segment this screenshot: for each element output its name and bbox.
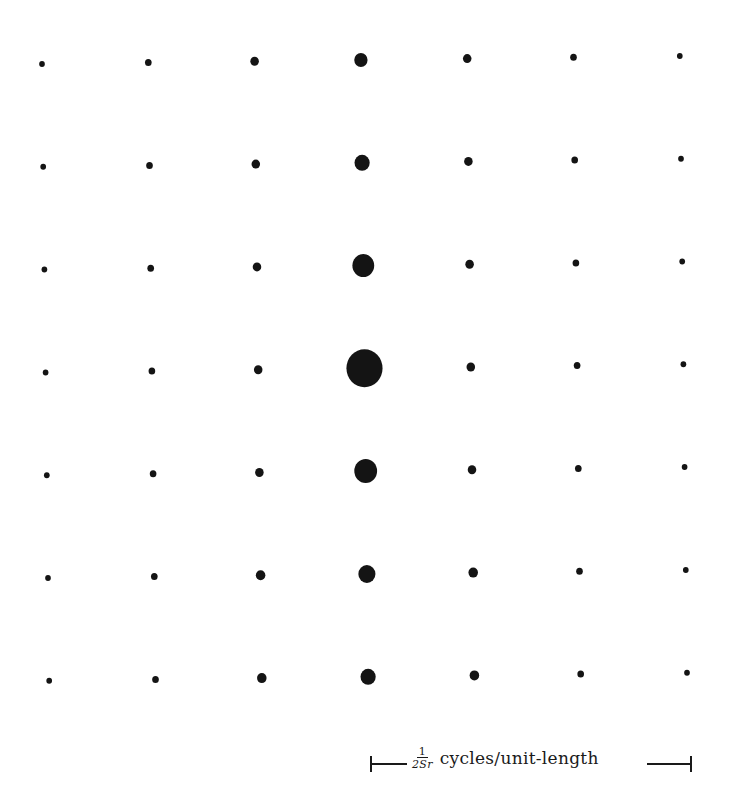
lattice-dot-r3-c3 — [253, 262, 262, 271]
lattice-dot-r3-c4 — [352, 254, 374, 277]
lattice-dot-r3-c1 — [42, 267, 48, 273]
scale-bar-label: 1 2Sr cycles/unit-length — [412, 746, 599, 770]
lattice-dot-r7-c5 — [470, 670, 480, 680]
lattice-dot-r2-c4 — [355, 155, 370, 171]
lattice-dot-r7-c4 — [361, 669, 376, 685]
lattice-dot-r2-c5 — [464, 157, 473, 166]
lattice-dot-r6-c6 — [576, 568, 583, 575]
lattice-dot-r7-c3 — [257, 673, 267, 683]
lattice-dot-r1-c2 — [145, 59, 152, 66]
lattice-figure — [0, 0, 741, 810]
lattice-dot-r4-c6 — [574, 362, 581, 369]
lattice-dot-r2-c7 — [678, 156, 684, 162]
lattice-dot-r6-c2 — [151, 573, 158, 580]
lattice-dot-r4-c7 — [681, 361, 687, 367]
lattice-dot-r4-c1 — [43, 369, 49, 375]
lattice-dot-r1-c6 — [570, 54, 577, 61]
lattice-dot-r1-c1 — [39, 61, 45, 67]
lattice-dot-r1-c7 — [677, 53, 683, 59]
lattice-dot-r4-c5 — [467, 363, 476, 372]
lattice-dot-r4-c4 — [346, 349, 382, 387]
lattice-dot-r2-c2 — [146, 162, 153, 169]
lattice-dot-r7-c1 — [46, 678, 52, 684]
lattice-dot-r1-c3 — [250, 57, 259, 66]
lattice-dot-r3-c5 — [465, 260, 474, 269]
lattice-dot-r2-c1 — [40, 164, 46, 170]
lattice-dots — [39, 53, 690, 685]
lattice-dot-r6-c4 — [358, 565, 375, 583]
lattice-dot-r5-c7 — [682, 464, 688, 470]
lattice-dot-r5-c6 — [575, 465, 582, 472]
fraction-denominator: 2Sr — [412, 758, 433, 770]
lattice-dot-r6-c7 — [683, 567, 689, 573]
lattice-dot-r6-c3 — [256, 570, 266, 580]
lattice-dot-r7-c2 — [152, 676, 159, 683]
lattice-dot-r3-c7 — [679, 259, 685, 265]
lattice-dot-r4-c2 — [149, 368, 156, 375]
lattice-dot-r5-c4 — [354, 459, 377, 483]
lattice-dot-r5-c3 — [255, 468, 264, 477]
scale-units: cycles/unit-length — [440, 748, 599, 768]
lattice-dot-r7-c6 — [577, 671, 584, 678]
lattice-dot-r5-c2 — [150, 470, 157, 477]
lattice-dot-r1-c5 — [463, 54, 472, 63]
lattice-dot-r4-c3 — [254, 365, 263, 374]
lattice-dot-r6-c1 — [45, 575, 51, 581]
lattice-dot-r1-c4 — [354, 53, 367, 67]
lattice-dot-r6-c5 — [468, 568, 478, 578]
scale-fraction: 1 2Sr — [412, 746, 433, 770]
lattice-dot-r3-c2 — [147, 265, 154, 272]
lattice-dot-r2-c3 — [252, 160, 261, 169]
lattice-dot-r5-c1 — [44, 472, 50, 478]
lattice-dot-r3-c6 — [573, 259, 580, 266]
lattice-dot-r7-c7 — [684, 670, 690, 676]
fraction-numerator: 1 — [417, 746, 428, 758]
lattice-dot-r2-c6 — [571, 157, 578, 164]
lattice-dot-r5-c5 — [468, 465, 477, 474]
